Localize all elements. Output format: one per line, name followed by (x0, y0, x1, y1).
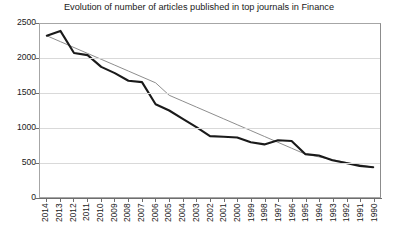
x-tick-label-2008: 2008 (121, 203, 134, 238)
chart-container: Evolution of number of articles publishe… (0, 0, 398, 238)
gridline-1000 (40, 128, 380, 129)
x-tick-label-2000: 2000 (231, 203, 244, 238)
x-tick-label-2013: 2013 (53, 203, 66, 238)
x-tick-mark-2013 (60, 199, 61, 202)
x-tick-label-2012: 2012 (67, 203, 80, 238)
gridline-1500 (40, 93, 380, 94)
x-tick-label-1995: 1995 (299, 203, 312, 238)
x-tick-mark-2008 (128, 199, 129, 202)
x-tick-label-2010: 2010 (94, 203, 107, 238)
x-tick-label-2001: 2001 (217, 203, 230, 238)
chart-title: Evolution of number of articles publishe… (0, 1, 398, 13)
x-tick-label-2006: 2006 (149, 203, 162, 238)
x-tick-label-2003: 2003 (190, 203, 203, 238)
gridline-500 (40, 163, 380, 164)
y-tick-label-2000: 2000 (2, 53, 36, 62)
x-tick-mark-2009 (114, 199, 115, 202)
x-tick-mark-2006 (155, 199, 156, 202)
x-tick-label-2007: 2007 (135, 203, 148, 238)
x-tick-mark-1994 (319, 199, 320, 202)
x-tick-mark-1990 (374, 199, 375, 202)
x-tick-label-1998: 1998 (258, 203, 271, 238)
gridline-2000 (40, 58, 380, 59)
x-tick-label-1991: 1991 (354, 203, 367, 238)
x-tick-label-1997: 1997 (272, 203, 285, 238)
trend-line-series (47, 36, 373, 167)
x-tick-mark-1993 (333, 199, 334, 202)
x-tick-mark-2000 (237, 199, 238, 202)
x-tick-mark-2003 (196, 199, 197, 202)
x-tick-label-1992: 1992 (340, 203, 353, 238)
y-tick-label-1000: 1000 (2, 123, 36, 132)
x-tick-mark-2014 (46, 199, 47, 202)
plot-area (39, 23, 381, 198)
x-tick-label-1994: 1994 (313, 203, 326, 238)
x-tick-mark-1998 (265, 199, 266, 202)
x-tick-mark-2004 (183, 199, 184, 202)
x-tick-label-2009: 2009 (108, 203, 121, 238)
x-tick-label-2011: 2011 (80, 203, 93, 238)
y-tick-label-500: 500 (2, 158, 36, 167)
y-tick-label-2500: 2500 (2, 18, 36, 27)
x-tick-label-2004: 2004 (176, 203, 189, 238)
y-axis-labels: 25002000150010005000 (0, 0, 36, 238)
x-axis-labels: 2014201320122011201020092008200720062005… (39, 199, 382, 238)
x-tick-mark-2010 (101, 199, 102, 202)
articles-line-series (47, 31, 373, 167)
x-tick-mark-1995 (306, 199, 307, 202)
x-tick-label-2014: 2014 (39, 203, 52, 238)
x-tick-mark-1991 (360, 199, 361, 202)
y-tick-label-0: 0 (2, 193, 36, 202)
x-tick-label-1996: 1996 (286, 203, 299, 238)
x-tick-mark-2012 (73, 199, 74, 202)
x-tick-label-1999: 1999 (245, 203, 258, 238)
x-tick-mark-2001 (224, 199, 225, 202)
line-chart-svg (40, 24, 380, 197)
x-tick-label-2002: 2002 (204, 203, 217, 238)
x-tick-mark-2007 (142, 199, 143, 202)
x-tick-mark-1996 (292, 199, 293, 202)
x-tick-mark-2005 (169, 199, 170, 202)
x-tick-mark-2002 (210, 199, 211, 202)
x-tick-label-1990: 1990 (368, 203, 381, 238)
x-tick-mark-1997 (278, 199, 279, 202)
y-tick-label-1500: 1500 (2, 88, 36, 97)
x-tick-mark-1999 (251, 199, 252, 202)
x-tick-label-2005: 2005 (162, 203, 175, 238)
x-tick-label-1993: 1993 (327, 203, 340, 238)
x-tick-mark-1992 (347, 199, 348, 202)
x-tick-mark-2011 (87, 199, 88, 202)
